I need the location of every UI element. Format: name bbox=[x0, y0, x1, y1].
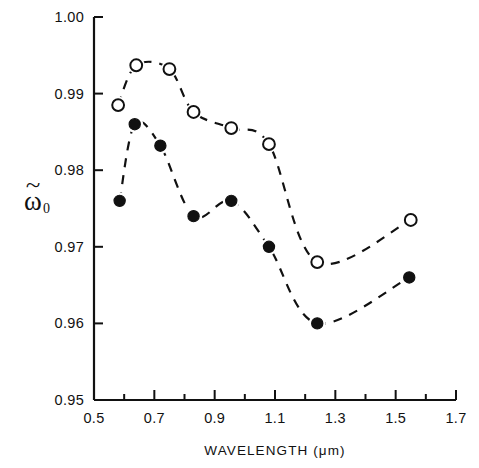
data-point-open-circle-series-5 bbox=[263, 138, 275, 150]
x-tick-label: 0.9 bbox=[204, 410, 225, 426]
data-point-filled-circle-series-4 bbox=[226, 195, 237, 206]
x-tick-label: 1.3 bbox=[325, 410, 346, 426]
series-line-open-circle-series bbox=[118, 62, 411, 264]
x-axis-title: WAVELENGTH (μm) bbox=[204, 443, 345, 458]
x-axis-tick-labels: 0.50.70.91.11.31.51.7 bbox=[83, 410, 466, 426]
data-point-open-circle-series-2 bbox=[164, 63, 176, 75]
data-point-open-circle-series-0 bbox=[112, 99, 124, 111]
data-point-filled-circle-series-7 bbox=[404, 272, 415, 283]
data-point-filled-circle-series-2 bbox=[155, 140, 166, 151]
y-tick-label: 0.99 bbox=[55, 86, 84, 102]
x-tick-label: 0.5 bbox=[83, 410, 104, 426]
omega-subscript: 0 bbox=[43, 201, 50, 216]
omega-symbol: ~ω bbox=[24, 188, 42, 215]
series-trend-lines bbox=[118, 62, 411, 324]
data-point-open-circle-series-1 bbox=[130, 59, 142, 71]
data-point-open-circle-series-4 bbox=[225, 122, 237, 134]
y-tick-label: 0.95 bbox=[55, 392, 84, 408]
y-tick-label: 0.96 bbox=[55, 315, 84, 331]
tilde-accent: ~ bbox=[26, 175, 41, 195]
data-point-open-circle-series-3 bbox=[188, 106, 200, 118]
data-point-filled-circle-series-0 bbox=[114, 195, 125, 206]
data-point-filled-circle-series-1 bbox=[129, 119, 140, 130]
y-axis-ticks bbox=[94, 17, 103, 400]
x-tick-label: 0.7 bbox=[144, 410, 165, 426]
figure-container: 0.950.960.970.980.991.00 0.50.70.91.11.3… bbox=[0, 0, 479, 468]
x-tick-label: 1.1 bbox=[264, 410, 285, 426]
data-point-filled-circle-series-6 bbox=[312, 318, 323, 329]
x-axis-ticks bbox=[94, 390, 456, 400]
data-point-open-circle-series-7 bbox=[405, 214, 417, 226]
series-data-markers bbox=[110, 57, 420, 332]
y-tick-label: 1.00 bbox=[55, 9, 84, 25]
scatter-plot: 0.950.960.970.980.991.00 0.50.70.91.11.3… bbox=[0, 0, 479, 468]
data-point-filled-circle-series-3 bbox=[188, 211, 199, 222]
y-axis-title: ~ω0 bbox=[6, 188, 68, 216]
y-tick-label: 0.97 bbox=[55, 239, 84, 255]
axis-lines bbox=[94, 17, 456, 400]
y-tick-label: 0.98 bbox=[55, 162, 84, 178]
data-point-filled-circle-series-5 bbox=[263, 241, 274, 252]
data-point-open-circle-series-6 bbox=[311, 256, 323, 268]
x-tick-label: 1.7 bbox=[445, 410, 466, 426]
x-tick-label: 1.5 bbox=[385, 410, 406, 426]
